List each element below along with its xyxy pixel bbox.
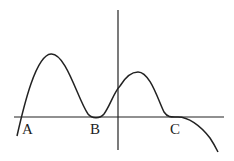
point-label-c: C: [170, 121, 180, 137]
point-label-a: A: [22, 121, 33, 137]
function-graph: A B C: [0, 0, 234, 161]
point-label-b: B: [90, 121, 100, 137]
